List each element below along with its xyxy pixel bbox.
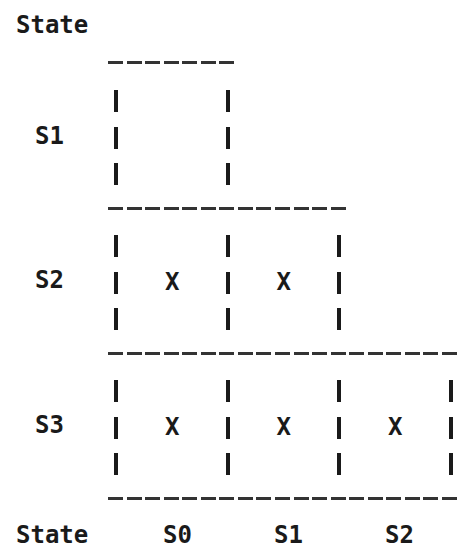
cell-border-bar bbox=[114, 90, 118, 112]
cell-mark: X bbox=[165, 270, 179, 294]
column-label: S0 bbox=[163, 523, 192, 547]
horizontal-rule-dash bbox=[182, 497, 197, 500]
row-label: S1 bbox=[35, 124, 64, 148]
horizontal-rule-dash bbox=[145, 352, 160, 355]
horizontal-rule-dash bbox=[182, 352, 197, 355]
horizontal-rule-dash bbox=[405, 352, 420, 355]
horizontal-rule-dash bbox=[256, 497, 271, 500]
horizontal-rule-dash bbox=[219, 352, 234, 355]
horizontal-rule-dash bbox=[201, 207, 216, 210]
horizontal-rule-dash bbox=[312, 497, 327, 500]
horizontal-rule-dash bbox=[238, 352, 253, 355]
cell-border-bar bbox=[114, 127, 118, 149]
cell-border-bar bbox=[226, 380, 230, 402]
cell-border-bar bbox=[337, 272, 341, 294]
cell-border-bar bbox=[114, 272, 118, 294]
cell-border-bar bbox=[114, 235, 118, 257]
cell-border-bar bbox=[114, 380, 118, 402]
cell-border-bar bbox=[114, 453, 118, 475]
horizontal-rule-dash bbox=[127, 352, 142, 355]
cell-border-bar bbox=[226, 453, 230, 475]
horizontal-rule-dash bbox=[145, 61, 160, 64]
horizontal-rule-dash bbox=[368, 497, 383, 500]
horizontal-rule-dash bbox=[201, 61, 216, 64]
row-label: S3 bbox=[35, 413, 64, 437]
horizontal-rule-dash bbox=[182, 61, 197, 64]
horizontal-rule-dash bbox=[294, 497, 309, 500]
horizontal-rule-dash bbox=[331, 207, 346, 210]
horizontal-rule-dash bbox=[145, 207, 160, 210]
horizontal-rule-dash bbox=[164, 497, 179, 500]
cell-border-bar bbox=[337, 235, 341, 257]
horizontal-rule-dash bbox=[108, 352, 123, 355]
horizontal-rule-dash bbox=[201, 352, 216, 355]
horizontal-rule-dash bbox=[256, 352, 271, 355]
horizontal-rule-dash bbox=[331, 497, 346, 500]
horizontal-rule-dash bbox=[127, 207, 142, 210]
cell-border-bar bbox=[449, 417, 453, 439]
horizontal-rule-dash bbox=[145, 497, 160, 500]
cell-border-bar bbox=[226, 235, 230, 257]
cell-border-bar bbox=[337, 380, 341, 402]
horizontal-rule-dash bbox=[164, 61, 179, 64]
horizontal-rule-dash bbox=[275, 207, 290, 210]
cell-border-bar bbox=[337, 453, 341, 475]
cell-mark: X bbox=[277, 270, 291, 294]
horizontal-rule-dash bbox=[108, 207, 123, 210]
cell-border-bar bbox=[337, 417, 341, 439]
horizontal-rule-dash bbox=[182, 207, 197, 210]
cell-border-bar bbox=[226, 127, 230, 149]
cell-border-bar bbox=[114, 163, 118, 185]
horizontal-rule-dash bbox=[256, 207, 271, 210]
horizontal-rule-dash bbox=[201, 497, 216, 500]
horizontal-rule-dash bbox=[294, 352, 309, 355]
horizontal-rule-dash bbox=[349, 497, 364, 500]
horizontal-rule-dash bbox=[238, 207, 253, 210]
cell-border-bar bbox=[226, 308, 230, 330]
horizontal-rule-dash bbox=[238, 497, 253, 500]
horizontal-rule-dash bbox=[423, 497, 438, 500]
cell-border-bar bbox=[226, 272, 230, 294]
horizontal-rule-dash bbox=[219, 207, 234, 210]
horizontal-rule-dash bbox=[127, 497, 142, 500]
cell-border-bar bbox=[226, 90, 230, 112]
horizontal-rule-dash bbox=[386, 497, 401, 500]
horizontal-rule-dash bbox=[368, 352, 383, 355]
column-label: S2 bbox=[385, 523, 414, 547]
cell-mark: X bbox=[165, 415, 179, 439]
horizontal-rule-dash bbox=[275, 352, 290, 355]
cell-border-bar bbox=[114, 308, 118, 330]
horizontal-rule-dash bbox=[405, 497, 420, 500]
horizontal-rule-dash bbox=[423, 352, 438, 355]
cell-mark: X bbox=[388, 415, 402, 439]
cell-border-bar bbox=[337, 308, 341, 330]
row-axis-title: State bbox=[16, 13, 88, 37]
cell-border-bar bbox=[226, 417, 230, 439]
row-label: S2 bbox=[35, 268, 64, 292]
cell-border-bar bbox=[114, 417, 118, 439]
cell-border-bar bbox=[449, 453, 453, 475]
column-axis-title: State bbox=[16, 523, 88, 547]
horizontal-rule-dash bbox=[442, 497, 457, 500]
cell-mark: X bbox=[277, 415, 291, 439]
horizontal-rule-dash bbox=[442, 352, 457, 355]
horizontal-rule-dash bbox=[386, 352, 401, 355]
horizontal-rule-dash bbox=[164, 352, 179, 355]
horizontal-rule-dash bbox=[127, 61, 142, 64]
horizontal-rule-dash bbox=[312, 207, 327, 210]
horizontal-rule-dash bbox=[108, 497, 123, 500]
horizontal-rule-dash bbox=[312, 352, 327, 355]
horizontal-rule-dash bbox=[349, 352, 364, 355]
cell-border-bar bbox=[226, 163, 230, 185]
horizontal-rule-dash bbox=[219, 497, 234, 500]
horizontal-rule-dash bbox=[108, 61, 123, 64]
horizontal-rule-dash bbox=[331, 352, 346, 355]
horizontal-rule-dash bbox=[164, 207, 179, 210]
horizontal-rule-dash bbox=[275, 497, 290, 500]
state-implication-table: State State S1 S2 S3 S0 S1 S2 XXXXX bbox=[0, 0, 476, 559]
cell-border-bar bbox=[449, 380, 453, 402]
horizontal-rule-dash bbox=[219, 61, 234, 64]
horizontal-rule-dash bbox=[294, 207, 309, 210]
column-label: S1 bbox=[274, 523, 303, 547]
